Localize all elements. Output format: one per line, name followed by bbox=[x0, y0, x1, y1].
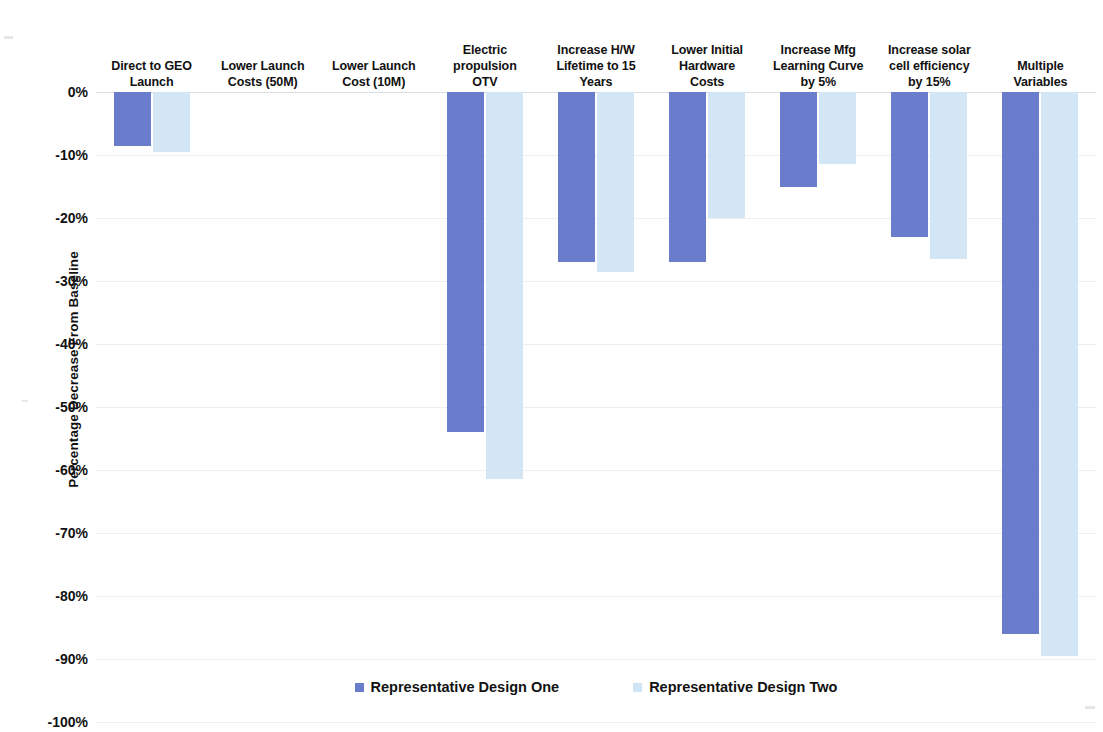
legend-label: Representative Design One bbox=[371, 679, 560, 695]
bar bbox=[819, 92, 856, 164]
label-line: OTV bbox=[429, 74, 540, 90]
y-axis-tick-label: -100% bbox=[14, 715, 88, 729]
bar-group bbox=[985, 92, 1096, 722]
label-line: Lower Launch bbox=[318, 58, 429, 74]
y-axis-tick-label: -30% bbox=[14, 274, 88, 288]
label-line: propulsion bbox=[429, 58, 540, 74]
bar bbox=[597, 92, 634, 272]
label-line: Launch bbox=[96, 74, 207, 90]
bar bbox=[891, 92, 928, 237]
bar bbox=[1041, 92, 1078, 656]
label-line: Lower Launch bbox=[207, 58, 318, 74]
x-axis-category-label: Lower InitialHardwareCosts bbox=[652, 42, 763, 90]
y-axis-tick-label: -90% bbox=[14, 652, 88, 666]
label-line: Increase solar bbox=[874, 42, 985, 58]
label-line: Costs bbox=[652, 74, 763, 90]
bar bbox=[114, 92, 151, 146]
x-axis-category-label: ElectricpropulsionOTV bbox=[429, 42, 540, 90]
y-axis-title: Percentage Decrease From Baseline bbox=[66, 205, 81, 535]
y-axis-tick-label: -70% bbox=[14, 526, 88, 540]
label-line: Costs (50M) bbox=[207, 74, 318, 90]
bar-group bbox=[429, 92, 540, 722]
bar-group bbox=[207, 92, 318, 722]
label-line: Learning Curve bbox=[763, 58, 874, 74]
bar bbox=[930, 92, 967, 259]
label-line: by 15% bbox=[874, 74, 985, 90]
x-axis-category-label: Lower LaunchCosts (50M) bbox=[207, 58, 318, 90]
label-line: Increase Mfg bbox=[763, 42, 874, 58]
x-axis-category-label: Lower LaunchCost (10M) bbox=[318, 58, 429, 90]
bar bbox=[558, 92, 595, 262]
y-axis-tick-label: -60% bbox=[14, 463, 88, 477]
legend-swatch-icon bbox=[355, 683, 364, 692]
y-axis-tick-label: -40% bbox=[14, 337, 88, 351]
label-line: Electric bbox=[429, 42, 540, 58]
bar-group bbox=[96, 92, 207, 722]
plot-area bbox=[96, 92, 1096, 722]
bar bbox=[447, 92, 484, 432]
bar-group bbox=[318, 92, 429, 722]
label-line: Variables bbox=[985, 74, 1096, 90]
x-axis-category-labels: Direct to GEOLaunchLower LaunchCosts (50… bbox=[96, 28, 1096, 90]
bar bbox=[708, 92, 745, 218]
label-line: Direct to GEO bbox=[96, 58, 207, 74]
label-line: Cost (10M) bbox=[318, 74, 429, 90]
label-line: Increase H/W bbox=[540, 42, 651, 58]
bar bbox=[669, 92, 706, 262]
bar bbox=[780, 92, 817, 187]
label-line: by 5% bbox=[763, 74, 874, 90]
x-axis-category-label: Direct to GEOLaunch bbox=[96, 58, 207, 90]
x-axis-category-label: Increase H/WLifetime to 15Years bbox=[540, 42, 651, 90]
legend-label: Representative Design Two bbox=[649, 679, 837, 695]
scan-artifact bbox=[22, 400, 28, 402]
bar bbox=[486, 92, 523, 479]
y-axis-tick-label: -50% bbox=[14, 400, 88, 414]
legend-item-series-two: Representative Design Two bbox=[633, 679, 837, 695]
y-axis-tick-label: -80% bbox=[14, 589, 88, 603]
label-line: Hardware bbox=[652, 58, 763, 74]
scan-artifact bbox=[1085, 706, 1095, 709]
bar-group bbox=[540, 92, 651, 722]
bar bbox=[153, 92, 190, 152]
legend-swatch-icon bbox=[633, 683, 642, 692]
label-line: Years bbox=[540, 74, 651, 90]
label-line: Multiple bbox=[985, 58, 1096, 74]
bar-chart: Percentage Decrease From Baseline 0%-10%… bbox=[0, 0, 1103, 732]
y-axis-tick-label: -20% bbox=[14, 211, 88, 225]
label-line: Lower Initial bbox=[652, 42, 763, 58]
y-axis-tick-label: -10% bbox=[14, 148, 88, 162]
x-axis-category-label: Increase solarcell efficiencyby 15% bbox=[874, 42, 985, 90]
bar-group bbox=[763, 92, 874, 722]
label-line: cell efficiency bbox=[874, 58, 985, 74]
chart-legend: Representative Design One Representative… bbox=[96, 676, 1096, 698]
legend-item-series-one: Representative Design One bbox=[355, 679, 560, 695]
bar-group bbox=[652, 92, 763, 722]
x-axis-category-label: Increase MfgLearning Curveby 5% bbox=[763, 42, 874, 90]
y-axis-tick-label: 0% bbox=[14, 85, 88, 99]
label-line: Lifetime to 15 bbox=[540, 58, 651, 74]
bar-group bbox=[874, 92, 985, 722]
gridline bbox=[96, 722, 1096, 723]
bar bbox=[1002, 92, 1039, 634]
x-axis-category-label: MultipleVariables bbox=[985, 58, 1096, 90]
scan-artifact bbox=[4, 36, 13, 39]
